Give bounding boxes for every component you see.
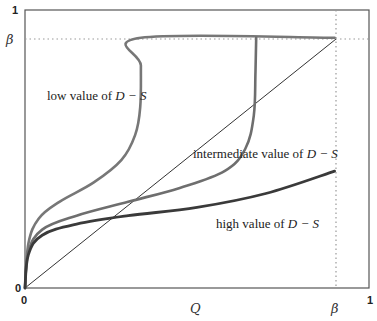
y-tick-zero: 0 — [15, 282, 21, 294]
y-tick-one: 1 — [12, 4, 18, 16]
y-tick-beta: β — [5, 32, 14, 47]
annotation-low-value: low value of D − S — [47, 88, 147, 103]
x-tick-zero: 0 — [21, 294, 27, 306]
chart: 1 β 0 0 Q β 1 low value of D − S interme… — [0, 0, 377, 321]
x-tick-one: 1 — [367, 294, 373, 306]
series-layer — [25, 36, 335, 288]
curve-low-value — [25, 36, 335, 288]
annotation-intermediate-value: intermediate value of D − S — [193, 146, 338, 161]
diagonal-line — [25, 39, 336, 288]
x-tick-beta: β — [330, 301, 339, 316]
x-axis-label: Q — [190, 301, 201, 316]
annotation-high-value: high value of D − S — [216, 216, 320, 231]
